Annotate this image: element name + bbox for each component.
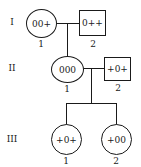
genotype-label: +00 (107, 135, 126, 145)
descent-line-gen-ii (91, 68, 92, 103)
individual-index: 1 (60, 156, 72, 166)
genotype-label: 00+ (32, 19, 51, 29)
individual-index: 2 (87, 39, 99, 49)
genotype-label: +0+ (56, 135, 77, 145)
child-line-iii-1 (66, 103, 67, 125)
individual-index: 1 (61, 84, 73, 94)
individual-index: 1 (35, 39, 47, 49)
individual-iii-1-female: +0+ (51, 124, 82, 155)
individual-i-2-male: 0++ (79, 10, 106, 36)
generation-label-ii: II (4, 63, 20, 73)
genotype-label: 000 (59, 65, 76, 75)
generation-label-iii: III (4, 134, 20, 144)
genotype-label: 0++ (82, 18, 103, 28)
sibship-line-gen-iii (66, 103, 117, 104)
individual-ii-1-female: 000 (51, 56, 84, 83)
individual-index: 2 (112, 83, 124, 93)
generation-label-i: I (4, 17, 20, 27)
individual-iii-2-female: +00 (101, 124, 132, 155)
mating-line-gen-ii (83, 68, 105, 69)
individual-index: 2 (110, 156, 122, 166)
individual-ii-2-male: +0+ (104, 57, 131, 81)
individual-i-1-female: 00+ (26, 9, 57, 38)
child-line-iii-2 (116, 103, 117, 125)
genotype-label: +0+ (107, 64, 128, 74)
descent-line-gen-i (67, 23, 68, 56)
